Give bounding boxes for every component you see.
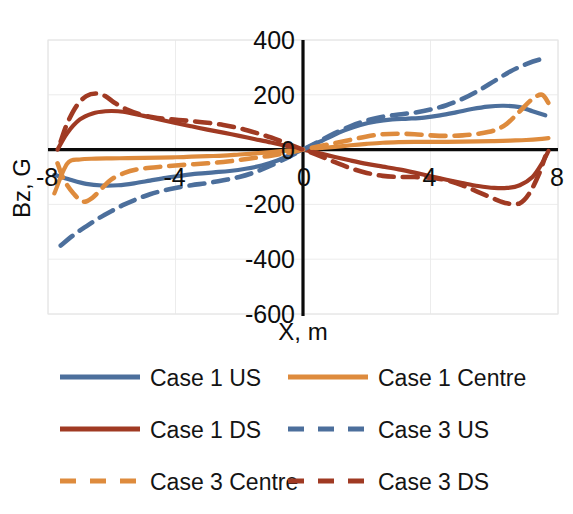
legend-label: Case 3 Centre [150, 469, 298, 495]
y-tick-label: -200 [245, 190, 295, 218]
x-tick-label: 0 [297, 163, 311, 191]
y-tick-label: 200 [253, 81, 295, 109]
chart-legend: Case 1 USCase 1 CentreCase 1 DSCase 3 US… [60, 365, 526, 495]
chart-canvas: 4002000-200-400-600-8-4048 X, m Bz, G Ca… [0, 0, 573, 514]
x-axis-title: X, m [278, 318, 327, 345]
legend-label: Case 1 DS [150, 417, 261, 443]
y-axis-title: Bz, G [8, 158, 35, 218]
legend-label: Case 1 US [150, 365, 261, 391]
x-tick-label: 4 [423, 163, 437, 191]
y-tick-label: -400 [245, 245, 295, 273]
y-tick-label: 0 [281, 136, 295, 164]
x-tick-label: 8 [550, 163, 564, 191]
legend-label: Case 3 DS [378, 469, 489, 495]
chart-figure: 4002000-200-400-600-8-4048 X, m Bz, G Ca… [0, 0, 573, 514]
x-tick-label: -4 [163, 163, 185, 191]
x-tick-label: -8 [36, 163, 58, 191]
y-tick-label: 400 [253, 26, 295, 54]
legend-label: Case 3 US [378, 417, 489, 443]
legend-label: Case 1 Centre [378, 365, 526, 391]
cut-off-title [0, 0, 573, 1]
